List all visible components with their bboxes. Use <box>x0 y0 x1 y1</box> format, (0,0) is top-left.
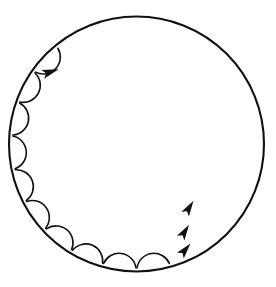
lower-right-direction-arrow-1 <box>181 201 193 217</box>
angle-arc-layer <box>13 48 170 268</box>
reflection-angle-arc <box>104 253 136 268</box>
lower-right-direction-arrow-3 <box>177 243 190 258</box>
direction-arrow-layer <box>41 69 193 258</box>
billiard-diagram <box>0 0 276 287</box>
figure-root <box>0 0 276 287</box>
outer-circle-boundary <box>9 17 264 272</box>
lower-right-direction-arrow-2 <box>177 225 189 241</box>
reflection-angle-arc <box>137 253 169 268</box>
reflection-angle-arc <box>15 170 33 201</box>
reflection-angle-arc <box>13 136 26 169</box>
reflection-angle-arc <box>73 244 103 263</box>
